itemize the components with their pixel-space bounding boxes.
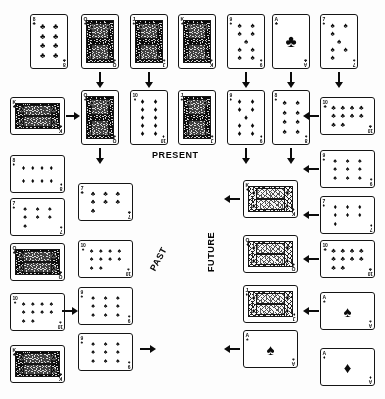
card-suit-glyph: ♣ — [81, 190, 84, 195]
pip-spades: ♠ — [282, 109, 286, 117]
playing-card[interactable]: A♣A♣♣ — [272, 14, 310, 69]
card-pips: ♦♦♦♦♦♦♦ — [329, 202, 366, 228]
court-card-artwork: ♠♠♠♠ — [135, 20, 163, 63]
pip-spades: ♠ — [22, 308, 26, 315]
playing-card[interactable]: 9♦9♦♦♦♦♦♦♦♦♦♦ — [227, 90, 265, 145]
card-index-br: 10♠ — [58, 320, 63, 329]
pip-spades: ♠ — [346, 174, 350, 181]
arrow-head — [242, 158, 250, 164]
playing-card[interactable]: 9♠9♠♠♠♠♠♠♠♠♠♠ — [320, 150, 375, 188]
playing-card[interactable]: 7♦7♦♦♦♦♦♦♦♦ — [320, 196, 375, 234]
pip-clubs: ♣ — [341, 104, 346, 111]
pip-spades: ♠ — [116, 311, 120, 318]
card-suit-glyph: ♦ — [370, 223, 372, 228]
pip-diamonds: ♦ — [22, 164, 26, 171]
arrow-head — [303, 211, 309, 219]
card-index-br: 9♠ — [370, 177, 372, 186]
pip-diamonds: ♦ — [153, 130, 157, 138]
card-pips: ♣♣♣♣♣♣♣♣♣♣ — [329, 246, 366, 272]
card-suit-glyph: ♠ — [246, 337, 249, 342]
court-corner-pip: ♦ — [285, 189, 289, 196]
court-corner-pip: ♠ — [90, 99, 94, 106]
card-index-br: J♠ — [163, 58, 165, 67]
pip-spades: ♠ — [91, 311, 95, 318]
arrow-head — [74, 112, 80, 120]
playing-card[interactable]: 8♦8♦♦♦♦♦♦♦♦♦ — [10, 155, 65, 193]
pip-spades: ♠ — [333, 157, 337, 164]
playing-card[interactable]: A♠A♠♠ — [243, 330, 298, 368]
card-pips: ♣♣♣♣♣♣♣ — [87, 189, 124, 215]
playing-card[interactable]: 10♣10♣♣♣♣♣♣♣♣♣♣♣ — [320, 97, 375, 135]
pip-clubs: ♣ — [359, 255, 364, 262]
playing-card[interactable]: Q♣Q♣♣♣♣♣ — [10, 243, 65, 281]
card-index-tl: 7♦ — [323, 199, 325, 208]
pip-spades: ♠ — [337, 38, 341, 46]
playing-card[interactable]: 8♣8♣♣♣♣♣♣♣♣♣ — [30, 14, 68, 69]
card-suit-glyph: ♣ — [63, 58, 66, 63]
pip-clubs: ♣ — [331, 104, 336, 111]
playing-card[interactable]: 7♠7♠♠♠♠♠♠♠♠ — [10, 198, 65, 236]
pip-clubs: ♣ — [116, 198, 121, 205]
playing-card[interactable]: A♦A♦♦ — [320, 348, 375, 386]
playing-card[interactable]: 7♠7♠♠♠♠♠♠♠♠ — [320, 14, 358, 69]
card-pips: ♣♣♣♣♣♣♣♣ — [36, 22, 62, 61]
pip-diamonds: ♦ — [244, 114, 248, 122]
pip-diamonds: ♦ — [237, 106, 241, 114]
pip-diamonds: ♦ — [31, 164, 35, 171]
playing-card[interactable]: J♦J♦♦♦♦♦ — [243, 285, 298, 323]
playing-card[interactable]: Q♠Q♠♠♠♠♠ — [81, 14, 119, 69]
pip-diamonds: ♦ — [22, 177, 26, 184]
arrow-head — [96, 82, 104, 88]
court-corner-pip: ♠ — [187, 129, 191, 136]
playing-card[interactable]: Q♦Q♦♦♦♦♦ — [243, 235, 298, 273]
court-corner-pip: ♦ — [252, 189, 256, 196]
playing-card[interactable]: J♠J♠♠♠♠♠ — [178, 90, 216, 145]
card-suit-glyph: ♣ — [128, 210, 131, 215]
pip-spades: ♠ — [91, 357, 95, 364]
card-pips: ♠♠♠♠♠♠♠♠♠ — [329, 156, 366, 182]
playing-card[interactable]: 7♣7♣♣♣♣♣♣♣♣ — [78, 183, 133, 221]
card-pips: ♦♦♦♦♦♦♦♦♦ — [233, 98, 259, 137]
playing-card[interactable]: Q♠Q♠♠♠♠♠ — [81, 90, 119, 145]
card-pips: ♠ — [252, 336, 289, 362]
playing-card[interactable]: A♠A♠♠ — [320, 292, 375, 330]
pip-clubs: ♣ — [331, 112, 336, 119]
playing-card[interactable]: 10♣10♣♣♣♣♣♣♣♣♣♣♣ — [320, 240, 375, 278]
card-index-br: 9♠ — [260, 58, 262, 67]
pip-spades: ♠ — [104, 357, 108, 364]
playing-card[interactable]: K♠K♠♠♠♠♠ — [178, 14, 216, 69]
pip-spades: ♠ — [116, 340, 120, 347]
playing-card[interactable]: 9♠9♠♠♠♠♠♠♠♠♠♠ — [78, 287, 133, 325]
court-card-artwork: ♦♦♦♦ — [248, 241, 293, 267]
playing-card[interactable]: 9♠9♠♠♠♠♠♠♠♠♠♠ — [78, 333, 133, 371]
card-index-br: A♠ — [369, 319, 372, 328]
pip-clubs: ♣ — [103, 198, 108, 205]
arrow-head — [224, 345, 230, 353]
court-corner-pip: ♣ — [51, 252, 56, 259]
card-pips: ♦♦♦♦♦♦♦♦ — [19, 161, 56, 187]
card-suit-glyph: ♠ — [128, 314, 130, 319]
playing-card[interactable]: K♣K♣♣♣♣♣ — [10, 345, 65, 383]
card-index-br: J♠ — [211, 134, 213, 143]
playing-card[interactable]: K♦K♦♦♦♦♦ — [243, 180, 298, 218]
card-index-tl: 9♠ — [323, 153, 325, 162]
playing-card[interactable]: K♣K♣♣♣♣♣ — [10, 97, 65, 135]
court-corner-pip: ♣ — [19, 265, 24, 272]
pip-spades: ♠ — [108, 255, 112, 262]
arrow-left-c17-icon — [303, 163, 319, 175]
playing-card[interactable]: J♠J♠♠♠♠♠ — [130, 14, 168, 69]
card-index-br: A♣ — [304, 58, 307, 67]
pip-clubs: ♣ — [40, 42, 45, 50]
playing-card[interactable]: 10♠10♠♠♠♠♠♠♠♠♠♠♠ — [78, 240, 133, 278]
court-card-artwork: ♦♦♦♦ — [248, 186, 293, 212]
pip-spades: ♠ — [91, 348, 95, 355]
playing-card[interactable]: 10♠10♠♠♠♠♠♠♠♠♠♠♠ — [10, 293, 65, 331]
card-pips: ♦ — [329, 354, 366, 380]
playing-card[interactable]: 9♠9♠♠♠♠♠♠♠♠♠♠ — [227, 14, 265, 69]
arrow-down-c5-icon — [240, 72, 252, 88]
pip-spades: ♠ — [36, 205, 40, 212]
card-suit-glyph: ♠ — [211, 134, 213, 139]
card-suit-glyph: ♠ — [323, 21, 325, 26]
court-card-artwork: ♣♣♣♣ — [15, 351, 60, 377]
playing-card[interactable]: 10♦10♦♦♦♦♦♦♦♦♦♦♦ — [130, 90, 168, 145]
